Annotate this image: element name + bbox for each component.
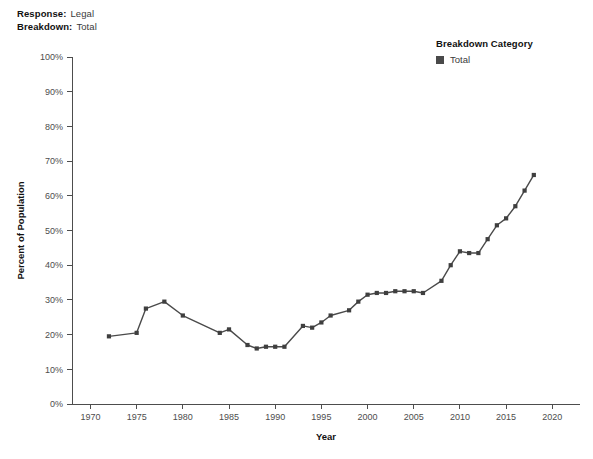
y-tick-label: 90% — [45, 87, 63, 97]
response-value: Legal — [70, 8, 94, 19]
breakdown-value: Total — [76, 21, 97, 32]
data-point[interactable] — [495, 223, 499, 227]
response-header: Response:Legal — [17, 8, 94, 19]
y-tick-label: 50% — [45, 226, 63, 236]
data-point[interactable] — [319, 320, 323, 324]
data-point[interactable] — [458, 249, 462, 253]
y-tick-label: 40% — [45, 260, 63, 270]
x-tick-label: 2005 — [404, 412, 424, 422]
data-point[interactable] — [532, 173, 536, 177]
legend-swatch-icon — [436, 56, 444, 64]
x-tick-label: 1995 — [311, 412, 331, 422]
x-tick-label: 2020 — [542, 412, 562, 422]
data-point[interactable] — [347, 308, 351, 312]
x-tick-label: 1990 — [265, 412, 285, 422]
x-tick-label: 2010 — [450, 412, 470, 422]
breakdown-label: Breakdown: — [17, 21, 72, 32]
data-point[interactable] — [486, 237, 490, 241]
data-series-total — [107, 173, 536, 351]
data-point[interactable] — [107, 334, 111, 338]
data-point[interactable] — [467, 251, 471, 255]
y-axis-title: Percent of Population — [15, 181, 26, 279]
data-point[interactable] — [144, 306, 148, 310]
x-tick-label: 2015 — [496, 412, 516, 422]
x-tick-label: 1980 — [173, 412, 193, 422]
line-chart-plot: 0%10%20%30%40%50%60%70%80%90%100% 197019… — [0, 0, 593, 440]
data-point[interactable] — [513, 204, 517, 208]
data-point[interactable] — [255, 346, 259, 350]
data-point[interactable] — [375, 291, 379, 295]
breakdown-header: Breakdown:Total — [17, 21, 97, 32]
data-point[interactable] — [402, 289, 406, 293]
x-tick-label: 1985 — [219, 412, 239, 422]
y-tick-label: 100% — [40, 52, 63, 62]
data-point[interactable] — [218, 331, 222, 335]
data-point[interactable] — [245, 343, 249, 347]
x-axis-title: Year — [316, 431, 336, 440]
legend-item-total[interactable]: Total — [436, 54, 586, 65]
legend-item-label: Total — [450, 54, 470, 65]
data-point[interactable] — [273, 345, 277, 349]
y-tick-label: 30% — [45, 295, 63, 305]
data-point[interactable] — [384, 291, 388, 295]
data-point[interactable] — [476, 251, 480, 255]
data-point[interactable] — [282, 345, 286, 349]
data-point[interactable] — [181, 313, 185, 317]
data-point[interactable] — [449, 263, 453, 267]
y-tick-label: 10% — [45, 365, 63, 375]
chart-container: Response:Legal Breakdown:Total Breakdown… — [0, 0, 593, 459]
x-axis: 1970197519801985199019952000200520102015… — [72, 404, 580, 422]
chart-legend: Breakdown Category Total — [436, 38, 586, 65]
x-tick-label: 1970 — [80, 412, 100, 422]
data-point[interactable] — [264, 345, 268, 349]
y-axis: 0%10%20%30%40%50%60%70%80%90%100% — [40, 52, 72, 409]
data-point[interactable] — [301, 324, 305, 328]
data-point[interactable] — [365, 293, 369, 297]
y-tick-label: 80% — [45, 122, 63, 132]
y-tick-label: 60% — [45, 191, 63, 201]
data-point[interactable] — [310, 326, 314, 330]
data-point[interactable] — [393, 289, 397, 293]
data-point[interactable] — [356, 300, 360, 304]
data-point[interactable] — [135, 331, 139, 335]
data-point[interactable] — [412, 289, 416, 293]
data-point[interactable] — [421, 291, 425, 295]
data-point[interactable] — [504, 216, 508, 220]
x-tick-label: 1975 — [127, 412, 147, 422]
y-tick-label: 20% — [45, 330, 63, 340]
legend-title: Breakdown Category — [436, 38, 586, 49]
data-point[interactable] — [522, 188, 526, 192]
y-tick-label: 70% — [45, 156, 63, 166]
x-tick-label: 2000 — [358, 412, 378, 422]
data-point[interactable] — [162, 300, 166, 304]
y-tick-label: 0% — [50, 399, 63, 409]
data-point[interactable] — [329, 313, 333, 317]
response-label: Response: — [17, 8, 66, 19]
data-point[interactable] — [227, 327, 231, 331]
data-point[interactable] — [439, 279, 443, 283]
